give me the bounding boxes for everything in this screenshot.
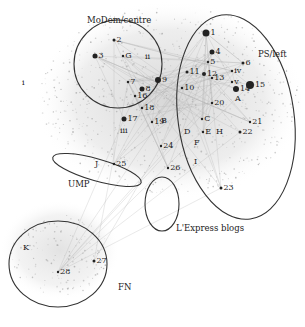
node-label: 4 xyxy=(216,48,221,56)
node-label: 27 xyxy=(97,257,107,265)
node-label: 26 xyxy=(170,164,180,172)
node-label: 6 xyxy=(246,59,251,67)
node-label: 15 xyxy=(255,81,265,89)
node-2 xyxy=(113,39,116,42)
node-14 xyxy=(233,86,239,92)
node-10 xyxy=(181,87,183,89)
node-label: 7 xyxy=(130,78,135,86)
node-label: i xyxy=(22,79,25,87)
node-G xyxy=(122,55,124,57)
node-label: F xyxy=(194,139,200,147)
node-7 xyxy=(127,81,129,83)
node-label: 18 xyxy=(144,104,154,112)
node-label: K xyxy=(23,244,29,252)
node-28 xyxy=(57,271,59,273)
node-label: 25 xyxy=(116,160,126,168)
node-4 xyxy=(210,50,215,55)
node-E xyxy=(202,131,204,133)
group-label-modem: MoDem/centre xyxy=(87,16,151,25)
node-iv xyxy=(231,70,233,72)
node-label: 1 xyxy=(211,29,216,37)
node-label: C xyxy=(204,115,210,123)
node-label: J xyxy=(95,160,98,168)
node-v xyxy=(231,81,233,83)
node-C xyxy=(201,118,203,120)
node-9 xyxy=(155,77,161,83)
node-label: 20 xyxy=(214,99,224,107)
node-label: 23 xyxy=(224,184,234,192)
node-label: I xyxy=(194,158,197,166)
node-label: G xyxy=(125,52,131,60)
node-label: B xyxy=(161,117,167,125)
node-label: 28 xyxy=(60,268,70,276)
node-24 xyxy=(160,145,162,147)
node-label: 13 xyxy=(214,74,224,82)
node-label: 22 xyxy=(243,128,253,136)
node-label: 2 xyxy=(117,36,122,44)
background-cloud xyxy=(0,0,305,300)
node-22 xyxy=(239,131,242,134)
node-1 xyxy=(203,30,210,37)
node-23 xyxy=(220,187,223,190)
node-19 xyxy=(151,121,153,123)
node-label: 3 xyxy=(99,52,104,60)
node-label: 11 xyxy=(190,68,200,76)
group-label-ps: PS/left xyxy=(258,50,287,59)
node-label: 24 xyxy=(163,142,173,150)
node-label: 10 xyxy=(184,84,194,92)
node-27 xyxy=(93,260,96,263)
node-label: 14 xyxy=(240,85,250,93)
node-label: v xyxy=(234,78,239,86)
node-20 xyxy=(211,102,213,104)
node-26 xyxy=(167,167,169,169)
node-5 xyxy=(207,61,209,63)
group-label-fn: FN xyxy=(118,283,131,292)
node-18 xyxy=(141,107,143,109)
node-6 xyxy=(242,62,245,65)
node-12 xyxy=(202,72,206,76)
node-label: H xyxy=(216,128,223,136)
node-label: D xyxy=(184,128,190,136)
node-label: 21 xyxy=(252,118,262,126)
node-17 xyxy=(122,117,127,122)
node-label: E xyxy=(205,128,211,136)
node-label: A xyxy=(235,95,241,103)
node-21 xyxy=(249,121,251,123)
group-label-ump: UMP xyxy=(68,180,90,189)
node-25 xyxy=(113,163,115,165)
group-label-lexpress: L'Express blogs xyxy=(176,224,244,233)
node-3 xyxy=(93,54,98,59)
node-label: iv xyxy=(234,67,241,75)
node-label: 5 xyxy=(210,58,215,66)
node-label: 16 xyxy=(137,92,147,100)
node-label: iii xyxy=(120,127,128,135)
node-11 xyxy=(186,71,189,74)
node-label: 9 xyxy=(162,76,167,84)
node-16 xyxy=(134,95,136,97)
node-label: 17 xyxy=(128,115,138,123)
node-label: ii xyxy=(145,53,150,61)
